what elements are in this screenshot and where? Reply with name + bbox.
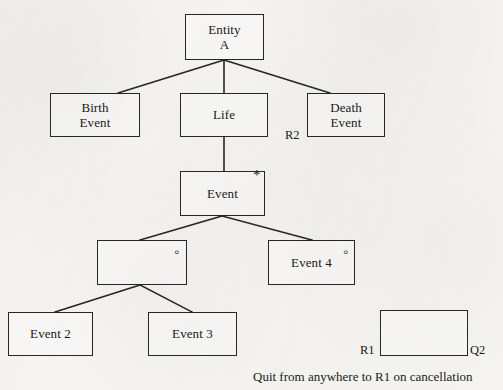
diagram-canvas: Entity A Birth Event Life Death Event R2… <box>0 0 503 390</box>
edge-label-r2: R2 <box>285 129 300 142</box>
node-life[interactable]: Life <box>180 93 268 137</box>
node-event-2-label: Event 2 <box>30 326 71 341</box>
edge-event-to-event4 <box>222 216 312 240</box>
edge-label-r1: R1 <box>360 344 375 357</box>
node-event-2[interactable]: Event 2 <box>8 312 93 356</box>
edge-blank-to-event3 <box>140 285 192 312</box>
edge-event-to-blank <box>140 216 222 240</box>
node-life-label: Life <box>213 107 235 122</box>
node-entity-a[interactable]: Entity A <box>185 14 264 60</box>
node-death-event-label: Death Event <box>330 100 362 130</box>
edge-label-q2: Q2 <box>470 344 485 357</box>
asterisk-icon: * <box>253 168 261 183</box>
node-event-label: Event <box>207 186 238 201</box>
node-event-4-label: Event 4 <box>291 255 332 270</box>
circle-icon-blank-left: ◦ <box>174 245 179 260</box>
edge-blank-to-event2 <box>55 285 140 312</box>
edge-entity-to-death <box>224 60 330 93</box>
node-birth-event-label: Birth Event <box>80 100 111 130</box>
node-event-3[interactable]: Event 3 <box>148 312 237 356</box>
circle-icon-event-4: ◦ <box>343 245 348 260</box>
node-quit-state[interactable] <box>380 310 468 356</box>
node-event-3-label: Event 3 <box>172 326 213 341</box>
node-death-event[interactable]: Death Event <box>307 93 385 137</box>
diagram-caption: Quit from anywhere to R1 on cancellation <box>253 370 473 383</box>
edge-entity-to-birth <box>118 60 224 93</box>
node-entity-a-label: Entity A <box>208 22 240 52</box>
node-birth-event[interactable]: Birth Event <box>50 93 140 137</box>
node-event-4[interactable]: Event 4 <box>268 240 355 285</box>
